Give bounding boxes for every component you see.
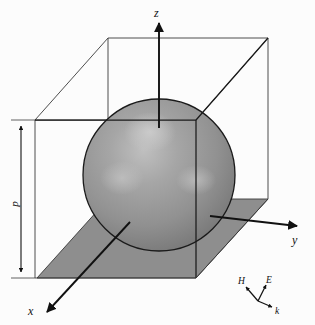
diagram-canvas: z y x p H E k bbox=[0, 0, 315, 325]
dimension-p-label: p bbox=[8, 201, 20, 208]
x-axis-label: x bbox=[27, 304, 34, 318]
y-axis-label: y bbox=[291, 233, 298, 247]
z-axis-label: z bbox=[153, 6, 159, 20]
figure-container: z y x p H E k bbox=[0, 0, 315, 325]
E-vector-label: E bbox=[265, 275, 272, 285]
H-vector-label: H bbox=[237, 276, 246, 286]
